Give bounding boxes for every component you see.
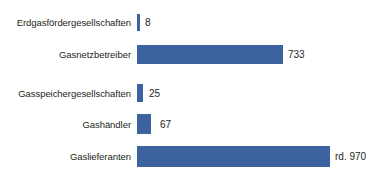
bar-chart: Erdgasfördergesellschaften 8 Gasnetzbetr… xyxy=(0,0,375,171)
value-label: 8 xyxy=(145,17,151,28)
bar xyxy=(137,146,330,167)
category-label: Gasnetzbetreiber xyxy=(0,49,131,60)
table-row: Gashändler 67 xyxy=(0,109,375,139)
table-row: Gasnetzbetreiber 733 xyxy=(0,39,375,69)
table-row: Gaslieferanten rd. 970 xyxy=(0,141,375,171)
bar-track: 25 xyxy=(131,78,375,108)
value-label: 733 xyxy=(288,49,305,60)
value-label: rd. 970 xyxy=(335,151,366,162)
category-label: Erdgasfördergesellschaften xyxy=(0,17,131,28)
bar xyxy=(137,45,283,64)
category-label: Gasspeichergesellschaften xyxy=(0,88,131,99)
category-label: Gashändler xyxy=(0,119,131,130)
value-label: 25 xyxy=(149,88,160,99)
bar xyxy=(137,114,151,134)
bar xyxy=(137,84,143,102)
table-row: Erdgasfördergesellschaften 8 xyxy=(0,7,375,37)
bar xyxy=(137,14,140,31)
bar-track: 8 xyxy=(131,7,375,37)
bar-track: 67 xyxy=(131,109,375,139)
category-label: Gaslieferanten xyxy=(0,151,131,162)
bar-track: 733 xyxy=(131,39,375,69)
table-row: Gasspeichergesellschaften 25 xyxy=(0,78,375,108)
value-label: 67 xyxy=(160,119,171,130)
bar-track: rd. 970 xyxy=(131,141,375,171)
